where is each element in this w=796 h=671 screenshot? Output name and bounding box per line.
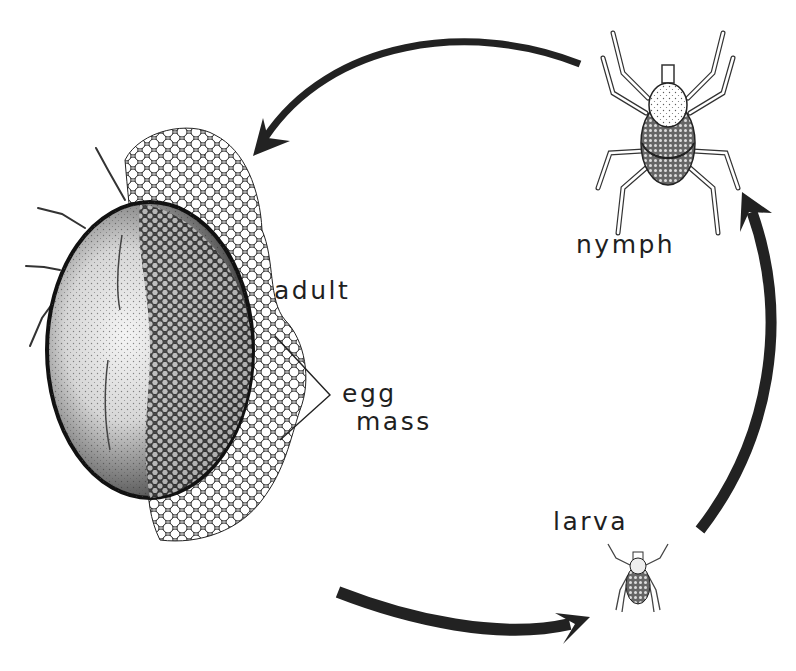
arrow-nymph-to-adult	[253, 42, 580, 156]
nymph-tick-illustration	[598, 33, 738, 233]
label-nymph: nymph	[576, 232, 675, 257]
label-egg: egg	[342, 381, 397, 406]
arrow-larva-to-nymph	[700, 192, 772, 530]
arrow-adult-to-larva	[338, 592, 590, 644]
life-cycle-diagram	[0, 0, 796, 671]
larva-tick-illustration	[608, 544, 668, 612]
label-mass: mass	[356, 409, 432, 434]
label-larva: larva	[553, 509, 628, 534]
adult-tick-illustration	[26, 128, 306, 541]
label-adult: adult	[274, 278, 350, 303]
